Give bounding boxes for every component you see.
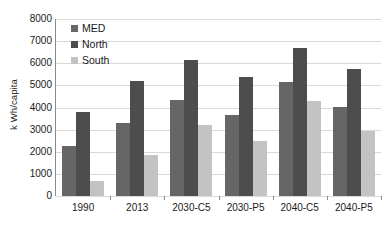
bar-south-2040-c5: [307, 101, 321, 196]
y-axis-tick-label: 4000: [6, 103, 52, 113]
bar-med-2040-p5: [333, 107, 347, 196]
legend-label: MED: [82, 23, 105, 34]
legend-swatch-icon: [71, 41, 78, 48]
x-axis-tick-mark: [110, 196, 111, 200]
legend-item-north[interactable]: North: [71, 36, 135, 52]
legend-swatch-icon: [71, 57, 78, 64]
x-axis-tick-mark: [327, 196, 328, 200]
y-axis-tick-label: 0: [6, 191, 52, 201]
x-axis-tick-label: 2030-C5: [164, 202, 218, 213]
x-axis-tick-label: 2013: [110, 202, 164, 213]
bar-group: [327, 19, 381, 196]
x-axis-tick-mark: [219, 196, 220, 200]
y-axis-tick-label: 5000: [6, 80, 52, 90]
bar-south-2040-p5: [361, 131, 375, 196]
x-axis-tick-label: 2040-P5: [327, 202, 381, 213]
bar-south-2013: [144, 155, 158, 196]
bar-med-2013: [116, 123, 130, 196]
legend-label: North: [82, 39, 108, 50]
y-axis-tick-label: 2000: [6, 147, 52, 157]
bar-south-1990: [90, 181, 104, 196]
bar-med-2040-c5: [279, 82, 293, 196]
x-axis-tick-label: 1990: [56, 202, 110, 213]
bar-north-2013: [130, 81, 144, 196]
x-axis-tick-label: 2030-P5: [219, 202, 273, 213]
bar-group: [164, 19, 218, 196]
bar-med-2030-c5: [170, 100, 184, 196]
legend-item-south[interactable]: South: [71, 52, 135, 68]
y-axis-tick-labels: 800070006000500040003000200010000: [0, 19, 52, 196]
bar-north-1990: [76, 112, 90, 196]
legend-label: South: [82, 55, 109, 66]
x-axis-tick-mark: [381, 196, 382, 200]
bar-group: [219, 19, 273, 196]
y-axis-tick-label: 6000: [6, 58, 52, 68]
y-axis-tick-label: 3000: [6, 125, 52, 135]
legend-swatch-icon: [71, 25, 78, 32]
bar-med-1990: [62, 146, 76, 196]
bar-chart: k Wh/capita 8000700060005000400030002000…: [0, 0, 388, 234]
bar-south-2030-p5: [253, 141, 267, 196]
x-axis-tick-label: 2040-C5: [273, 202, 327, 213]
bar-group: [273, 19, 327, 196]
bar-north-2040-p5: [347, 69, 361, 196]
bar-north-2030-c5: [184, 60, 198, 196]
x-axis-tick-mark: [273, 196, 274, 200]
y-axis-tick-label: 7000: [6, 36, 52, 46]
bar-med-2030-p5: [225, 115, 239, 196]
bar-north-2030-p5: [239, 77, 253, 196]
bar-south-2030-c5: [198, 125, 212, 196]
bar-north-2040-c5: [293, 48, 307, 196]
legend: MEDNorthSouth: [71, 20, 135, 68]
y-axis-tick-label: 8000: [6, 14, 52, 24]
x-axis-tick-mark: [164, 196, 165, 200]
legend-item-med[interactable]: MED: [71, 20, 135, 36]
y-axis-tick-label: 1000: [6, 169, 52, 179]
